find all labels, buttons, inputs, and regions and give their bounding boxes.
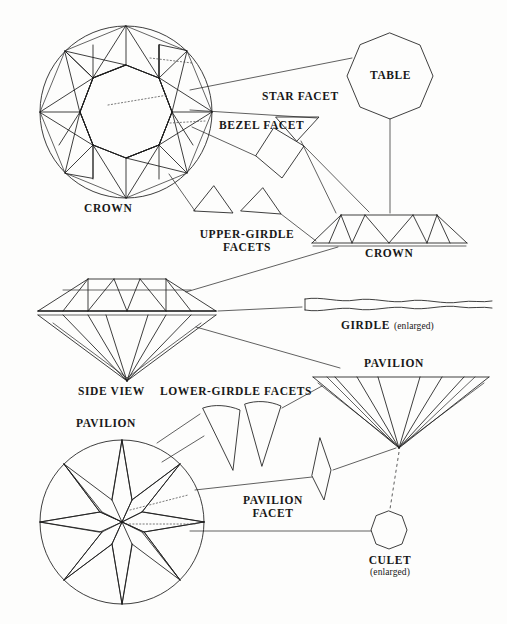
pavilion-profile-leader (196, 327, 340, 368)
label-girdle-qualifier: (enlarged) (394, 322, 434, 332)
girdle-lower-edge (305, 306, 492, 311)
pavilion-facet-outline (312, 438, 331, 500)
pavilion-dotted-guide-1 (130, 495, 188, 510)
upper-girdle-facet-shapes (194, 186, 281, 214)
label-girdle-enlarged: GIRDLE (enlarged) (341, 319, 434, 332)
upper-girdle-facet-outline-left (194, 186, 233, 213)
girdle-enlarged (305, 298, 492, 311)
crown-dotted-guide-2 (150, 58, 192, 63)
label-girdle-main: GIRDLE (341, 319, 390, 331)
label-culet-enlarged: CULET (enlarged) (351, 554, 429, 578)
pavilion-facet-leader (195, 477, 312, 490)
label-pavilion-face-down: PAVILION (76, 417, 136, 429)
side-view-pavilion-facets (53, 315, 201, 381)
lower-girdle-facet-outline-left (203, 406, 240, 470)
lower-girdle-facets-leader-2 (162, 436, 204, 462)
crown-table-octagon (80, 65, 172, 158)
label-upper-girdle-facets: UPPER-GIRDLE FACETS (189, 228, 305, 254)
upper-girdle-facet-outline-right (241, 188, 281, 214)
diamond-facet-diagram: CROWN STAR FACET BEZEL FACET TABLE UPPER… (0, 0, 507, 624)
label-pavilion-facet-line2: FACET (228, 507, 318, 520)
label-table: TABLE (370, 69, 411, 81)
pavilion-profile (313, 377, 489, 448)
crown-profile-facet-lines (329, 215, 450, 243)
label-pavilion-facet-line1: PAVILION (228, 494, 318, 507)
culet-enlarged (371, 511, 407, 549)
bezel-facet-outline (256, 128, 304, 178)
crown-profile (312, 215, 467, 246)
crown-profile-to-side-view-leader (186, 247, 338, 292)
pavilion-bottom-view (40, 440, 204, 604)
side-view-crown-facets (63, 279, 191, 311)
pavilion-facet-shape (312, 438, 331, 500)
lower-girdle-facet-shapes (203, 402, 281, 470)
label-pavilion-profile: PAVILION (364, 357, 424, 369)
label-side-view: SIDE VIEW (78, 385, 145, 397)
crown-top-view (40, 26, 212, 198)
culet-octagon-outline (371, 511, 407, 549)
label-culet-main: CULET (351, 554, 429, 567)
pavilion-profile-facet-lines (318, 377, 484, 448)
label-culet-qualifier: (enlarged) (351, 567, 429, 578)
label-upper-girdle-facets-line1: UPPER-GIRDLE (189, 228, 305, 241)
label-crown-face-up: CROWN (84, 202, 132, 214)
crown-profile-right-slope (437, 215, 467, 243)
bezel-facet-to-profile-leader (304, 146, 369, 212)
culet-from-profile-leader (390, 452, 399, 509)
star-facet-to-profile-leader (301, 141, 336, 213)
label-upper-girdle-facets-line2: FACETS (189, 241, 305, 254)
bezel-facet-leader (192, 127, 256, 156)
table-leader (190, 58, 352, 90)
diagram-canvas (0, 0, 507, 624)
crown-profile-left-slope (312, 215, 341, 243)
bezel-facet-shape (256, 128, 304, 178)
girdle-leader (218, 307, 302, 311)
label-crown-profile: CROWN (365, 247, 413, 259)
label-star-facet: STAR FACET (262, 90, 339, 102)
pavilion-facet-to-profile-leader (333, 448, 396, 470)
label-pavilion-facet: PAVILION FACET (228, 494, 318, 520)
label-bezel-facet: BEZEL FACET (219, 119, 304, 131)
crown-dotted-guide-3 (170, 121, 205, 123)
diamond-side-view (38, 279, 216, 381)
lower-girdle-facets-leader (157, 414, 200, 443)
upper-girdle-facets-leader (169, 174, 195, 211)
lower-girdle-facet-outline-right (245, 402, 281, 466)
label-lower-girdle-facets: LOWER-GIRDLE FACETS (160, 385, 312, 397)
crown-dotted-guide-1 (108, 95, 168, 105)
girdle-upper-edge (305, 298, 492, 303)
